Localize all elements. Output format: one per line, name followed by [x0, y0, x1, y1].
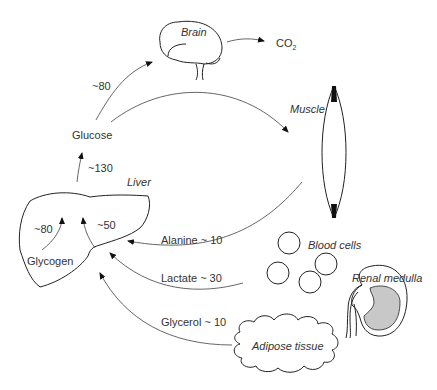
liver-to-glucose-arrow	[77, 153, 82, 182]
glycerol-label: Glycerol ~ 10	[161, 316, 226, 328]
liver-to-glucose-value: ~130	[88, 162, 113, 174]
gluconeogenesis-arrow	[83, 218, 95, 248]
muscle-icon	[322, 86, 346, 218]
alanine-label: Alanine ~ 10	[161, 234, 222, 246]
gluconeogenesis-value: ~50	[97, 219, 116, 231]
adipose-tissue-label: Adipose tissue	[251, 340, 324, 352]
liver-icon	[19, 193, 149, 287]
brain-label: Brain	[181, 26, 207, 38]
glucose-to-brain-value: ~80	[92, 80, 111, 92]
glucose-label: Glucose	[72, 129, 112, 141]
glucose-metabolism-diagram: Brain CO2 ~80 Glucose ~130 Liver ~80 ~50…	[0, 0, 437, 390]
glycogen-label: Glycogen	[27, 255, 73, 267]
glucose-to-muscle-arrow	[111, 92, 288, 132]
blood-cells-label: Blood cells	[308, 239, 362, 251]
co2-label: CO2	[276, 37, 297, 51]
glycogen-flow-value: ~80	[34, 223, 53, 235]
muscle-label: Muscle	[290, 103, 325, 115]
liver-label: Liver	[127, 176, 152, 188]
lactate-label: Lactate ~ 30	[161, 272, 222, 284]
brain-to-co2-arrow	[227, 39, 264, 42]
renal-medulla-label: Renal medulla	[352, 272, 422, 284]
